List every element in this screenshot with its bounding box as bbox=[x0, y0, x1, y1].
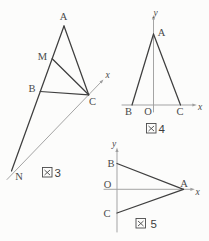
fig3-x-axis-line bbox=[7, 82, 102, 180]
figure-3: A M B C N x 3 bbox=[7, 11, 110, 182]
fig3-label-C: C bbox=[89, 96, 96, 107]
fig4-segment-AC bbox=[154, 34, 181, 105]
fig5-y-axis-label: y bbox=[111, 139, 117, 149]
fig3-segment-AN bbox=[12, 26, 65, 171]
fig3-segment-AC bbox=[64, 26, 89, 95]
fig5-label-C: C bbox=[103, 208, 110, 219]
fig5-caption-number: 5 bbox=[151, 218, 157, 230]
fig5-zu-kanji-icon bbox=[136, 219, 146, 229]
fig5-caption: 5 bbox=[136, 218, 157, 230]
fig5-x-axis-label: x bbox=[194, 187, 200, 197]
fig4-label-A: A bbox=[158, 27, 166, 38]
fig3-segment-MC bbox=[52, 59, 88, 95]
fig4-segment-AB bbox=[132, 34, 154, 105]
figure-5: y x B O C A 5 bbox=[103, 139, 200, 233]
fig3-label-B: B bbox=[28, 83, 35, 94]
figures-canvas: A M B C N x 3 y x A B O C bbox=[0, 0, 209, 241]
fig3-x-axis-label: x bbox=[104, 70, 110, 80]
figure-4: y x A B O C 4 bbox=[122, 8, 203, 136]
fig3-zu-kanji-icon bbox=[43, 168, 53, 178]
geometry-figures-panel: A M B C N x 3 y x A B O C bbox=[0, 0, 209, 241]
fig5-segment-CA bbox=[117, 189, 184, 213]
fig5-label-A: A bbox=[180, 178, 188, 189]
fig4-label-O: O bbox=[144, 106, 152, 117]
fig3-segment-BC bbox=[40, 92, 88, 95]
fig3-caption: 3 bbox=[43, 167, 61, 179]
fig4-zu-kanji-icon bbox=[147, 124, 157, 134]
fig4-x-axis-arrow-icon bbox=[192, 103, 196, 106]
fig5-x-axis-arrow-icon bbox=[190, 188, 194, 191]
fig4-label-B: B bbox=[125, 106, 132, 117]
fig5-segment-BA bbox=[117, 164, 184, 190]
fig3-label-M: M bbox=[38, 51, 48, 62]
fig3-label-A: A bbox=[60, 11, 68, 22]
fig5-label-O: O bbox=[104, 179, 112, 190]
fig4-caption: 4 bbox=[147, 123, 166, 135]
fig3-label-N: N bbox=[15, 171, 23, 182]
fig4-x-axis-label: x bbox=[197, 102, 203, 112]
fig3-caption-number: 3 bbox=[55, 167, 61, 179]
fig4-caption-number: 4 bbox=[159, 123, 166, 135]
fig4-y-axis-label: y bbox=[152, 8, 158, 18]
fig5-label-B: B bbox=[107, 158, 114, 169]
fig4-label-C: C bbox=[176, 106, 183, 117]
